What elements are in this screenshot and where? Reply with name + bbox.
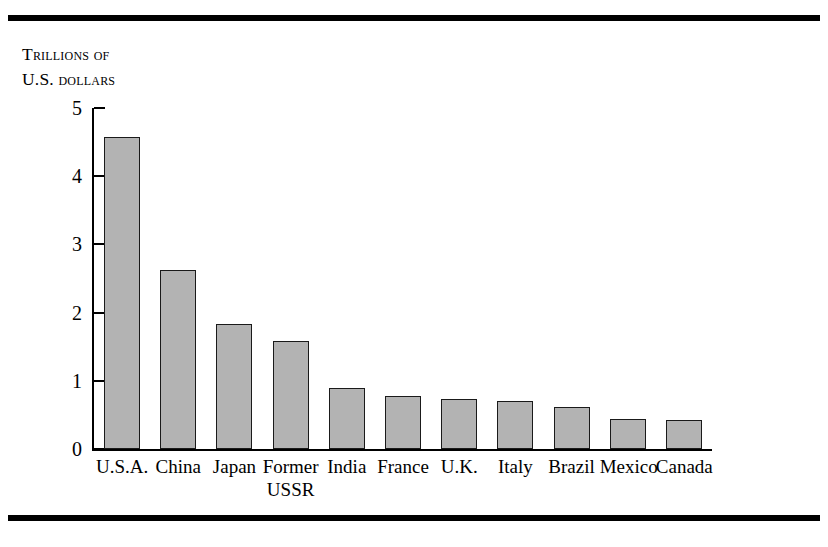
bar — [554, 407, 590, 449]
bar-slot — [329, 108, 365, 449]
bar-slot — [385, 108, 421, 449]
bar — [666, 420, 702, 449]
bar-slot — [441, 108, 477, 449]
x-axis-category-label: Japan — [206, 455, 262, 478]
bar — [329, 388, 365, 449]
bar-slot — [160, 108, 196, 449]
y-axis-title-line1: rillions of — [33, 44, 110, 64]
bar — [104, 137, 140, 449]
y-axis-title: Trillions of U.S. dollars — [22, 42, 252, 92]
y-axis-tick-label: 5 — [42, 98, 82, 118]
bar-slot — [554, 108, 590, 449]
x-axis-category-label: India — [319, 455, 375, 478]
x-axis-category-label: Mexico — [600, 455, 656, 478]
figure-container: Trillions of U.S. dollars 012345 U.S.A.C… — [0, 0, 828, 547]
bar-slot — [216, 108, 252, 449]
x-axis-category-label: Canada — [656, 455, 712, 478]
bar-slot — [666, 108, 702, 449]
y-axis-tick-label: 0 — [42, 439, 82, 459]
x-axis-category-label: U.K. — [431, 455, 487, 478]
x-axis-category-label: U.S.A. — [94, 455, 150, 478]
bar — [273, 341, 309, 449]
y-axis-tick-label: 2 — [42, 303, 82, 323]
y-axis-tick-label: 1 — [42, 371, 82, 391]
bar-slot — [273, 108, 309, 449]
bar-series — [94, 108, 712, 449]
bar — [160, 270, 196, 449]
bar-slot — [610, 108, 646, 449]
bar — [497, 401, 533, 449]
y-axis-title-line1-lead: T — [22, 44, 33, 64]
x-axis-category-label: China — [150, 455, 206, 478]
bar — [216, 324, 252, 449]
x-axis-line — [92, 449, 712, 451]
bar — [385, 396, 421, 449]
y-axis-title-line2: dollars — [54, 69, 115, 89]
x-axis-category-label: Italy — [487, 455, 543, 478]
x-axis-category-label: France — [375, 455, 431, 478]
y-axis-tick-label: 3 — [42, 234, 82, 254]
x-axis-category-label: Former USSR — [263, 455, 319, 501]
bar-slot — [497, 108, 533, 449]
chart-plot-area: Trillions of U.S. dollars 012345 U.S.A.C… — [0, 0, 828, 547]
y-axis-tick-label: 4 — [42, 166, 82, 186]
bar — [610, 419, 646, 449]
bar — [441, 399, 477, 449]
x-axis-category-label: Brazil — [543, 455, 599, 478]
bar-slot — [104, 108, 140, 449]
y-axis-title-line2-lead: U.S. — [22, 69, 54, 89]
